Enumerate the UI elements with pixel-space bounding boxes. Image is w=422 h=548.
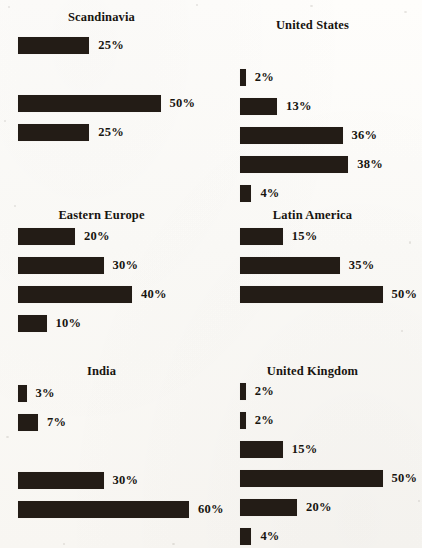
bar-value-label: 25% xyxy=(98,125,124,140)
bar-gap xyxy=(240,400,422,412)
bar-gap xyxy=(18,303,211,315)
bar-value-label: 10% xyxy=(56,316,82,331)
bar-row: 25% xyxy=(18,37,211,54)
bar-fill xyxy=(240,499,297,516)
bar-value-label: 15% xyxy=(292,442,318,457)
bar-fill xyxy=(18,385,27,402)
bar-gap xyxy=(240,429,422,441)
bar-fill xyxy=(240,228,283,245)
bar-gap xyxy=(240,115,422,127)
bar-fill xyxy=(18,501,189,518)
panel-title-united-kingdom: United Kingdom xyxy=(211,364,414,379)
bar-row: 20% xyxy=(240,499,422,516)
bar-value-label: 50% xyxy=(170,96,196,111)
chart-grid: Scandinavia25%50%25%United States2%13%36… xyxy=(0,0,422,548)
panel-title-eastern-europe: Eastern Europe xyxy=(0,208,203,223)
bar-value-label: 4% xyxy=(260,186,279,201)
bar-gap xyxy=(18,112,211,124)
panel-united-kingdom: United Kingdom2%2%15%50%20%4% xyxy=(211,350,422,548)
bar-row: 2% xyxy=(240,69,422,86)
bar-row: 36% xyxy=(240,127,422,144)
bar-value-label: 36% xyxy=(352,128,378,143)
bar-value-label: 2% xyxy=(255,384,274,399)
bar-placeholder-zero xyxy=(18,443,211,460)
bar-fill xyxy=(18,286,132,303)
panel-title-india: India xyxy=(0,364,203,379)
bar-row: 38% xyxy=(240,156,422,173)
panel-latin-america: Latin America15%35%50% xyxy=(211,200,422,350)
bar-value-label: 3% xyxy=(36,386,55,401)
bar-gap xyxy=(240,458,422,470)
bar-group-india: 3%7%30%60% xyxy=(0,385,211,518)
bar-row: 50% xyxy=(240,470,422,487)
bar-row: 60% xyxy=(18,501,211,518)
bar-fill xyxy=(240,383,246,400)
bar-value-label: 35% xyxy=(349,258,375,273)
bar-row: 10% xyxy=(18,315,211,332)
panel-title-latin-america: Latin America xyxy=(211,208,414,223)
bar-value-label: 15% xyxy=(292,229,318,244)
bar-gap xyxy=(18,54,211,66)
bar-fill xyxy=(240,528,251,545)
bar-gap xyxy=(240,144,422,156)
bar-fill xyxy=(18,315,47,332)
bar-fill xyxy=(18,414,38,431)
bar-fill xyxy=(240,257,340,274)
bar-row: 2% xyxy=(240,412,422,429)
bar-row: 50% xyxy=(18,95,211,112)
bar-value-label: 13% xyxy=(286,99,312,114)
bar-fill xyxy=(18,472,104,489)
bar-fill xyxy=(18,124,89,141)
bar-value-label: 40% xyxy=(141,287,167,302)
panel-eastern-europe: Eastern Europe20%30%40%10% xyxy=(0,200,211,350)
bar-fill xyxy=(240,156,348,173)
bar-value-label: 20% xyxy=(84,229,110,244)
bar-row: 35% xyxy=(240,257,422,274)
bar-group-eastern-europe: 20%30%40%10% xyxy=(0,228,211,332)
bar-row: 15% xyxy=(240,228,422,245)
panel-title-scandinavia: Scandinavia xyxy=(0,10,203,25)
bar-group-united-states: 2%13%36%38%4% xyxy=(211,69,422,202)
bar-row: 30% xyxy=(18,257,211,274)
bar-value-label: 4% xyxy=(260,529,279,544)
bar-gap xyxy=(18,245,211,257)
panel-scandinavia: Scandinavia25%50%25% xyxy=(0,0,211,200)
bar-fill xyxy=(240,412,246,429)
bar-row: 13% xyxy=(240,98,422,115)
bar-fill xyxy=(240,98,277,115)
bar-gap xyxy=(18,489,211,501)
bar-value-label: 20% xyxy=(306,500,332,515)
bar-value-label: 7% xyxy=(47,415,66,430)
bar-placeholder-zero xyxy=(18,66,211,83)
bar-gap xyxy=(240,487,422,499)
bar-row: 4% xyxy=(240,528,422,545)
bar-gap xyxy=(240,245,422,257)
bar-gap xyxy=(240,173,422,185)
bar-value-label: 2% xyxy=(255,70,274,85)
bar-row: 2% xyxy=(240,383,422,400)
bar-fill xyxy=(240,127,343,144)
bar-value-label: 25% xyxy=(98,38,124,53)
bar-gap xyxy=(18,83,211,95)
panel-title-united-states: United States xyxy=(211,18,414,33)
bar-gap xyxy=(240,86,422,98)
panel-united-states: United States2%13%36%38%4% xyxy=(211,0,422,200)
bar-value-label: 50% xyxy=(392,471,418,486)
bar-fill xyxy=(18,95,161,112)
bar-value-label: 2% xyxy=(255,413,274,428)
bar-fill xyxy=(18,37,89,54)
bar-row: 50% xyxy=(240,286,422,303)
bar-group-united-kingdom: 2%2%15%50%20%4% xyxy=(211,383,422,545)
bar-fill xyxy=(18,228,75,245)
bar-row: 15% xyxy=(240,441,422,458)
bar-value-label: 50% xyxy=(392,287,418,302)
bar-gap xyxy=(18,274,211,286)
bar-row: 25% xyxy=(18,124,211,141)
bar-row: 30% xyxy=(18,472,211,489)
panel-india: India3%7%30%60% xyxy=(0,350,211,548)
bar-group-latin-america: 15%35%50% xyxy=(211,228,422,303)
bar-fill xyxy=(240,441,283,458)
bar-value-label: 38% xyxy=(357,157,383,172)
bar-value-label: 30% xyxy=(113,258,139,273)
bar-row: 20% xyxy=(18,228,211,245)
